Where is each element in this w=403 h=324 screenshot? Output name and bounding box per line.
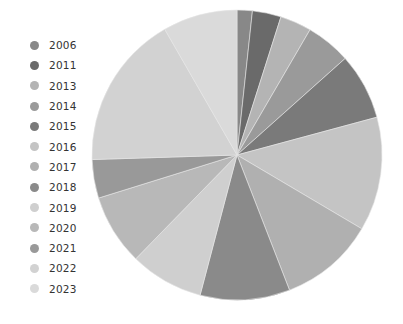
pie-chart <box>0 0 403 324</box>
